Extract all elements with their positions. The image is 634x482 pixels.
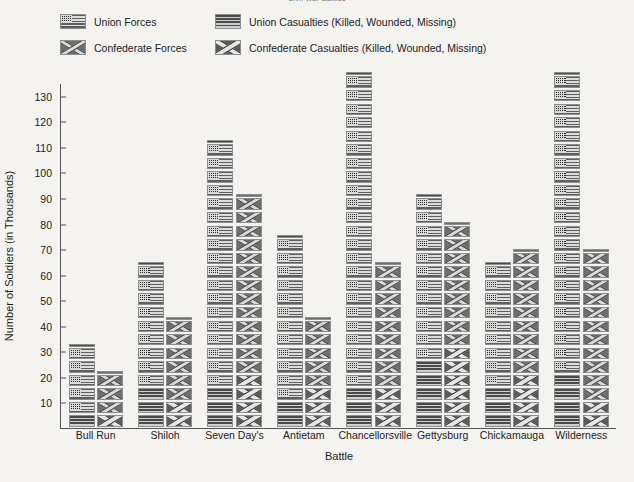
union-flag-casualty-icon xyxy=(207,402,233,413)
legend-item-union-casualties[interactable]: Union Casualties (Killed, Wounded, Missi… xyxy=(215,14,456,29)
confederate-flag-icon xyxy=(97,375,123,386)
bar-cap xyxy=(444,222,470,225)
confederate-flag-icon xyxy=(236,348,262,359)
union-flag-icon xyxy=(207,266,233,277)
union-flag-icon xyxy=(207,198,233,209)
confederate-flag-icon xyxy=(444,266,470,277)
union-flag-casualty-icon xyxy=(346,415,372,426)
union-flag-icon xyxy=(554,158,580,169)
confederate-flag-icon xyxy=(513,253,539,264)
chart-title: Civil War Battles xyxy=(0,0,634,2)
union-flag-icon xyxy=(346,104,372,115)
union-flag-casualty-icon xyxy=(346,402,372,413)
confederate-flag-icon xyxy=(583,334,609,345)
confederate-bar[interactable] xyxy=(97,370,123,428)
confederate-flag-icon xyxy=(583,293,609,304)
union-flag-icon xyxy=(138,361,164,372)
union-flag-icon xyxy=(69,388,95,399)
union-flag-icon xyxy=(554,266,580,277)
union-flag-icon xyxy=(346,90,372,101)
confederate-flag-icon xyxy=(97,388,123,399)
confederate-flag-icon xyxy=(513,307,539,318)
confederate-bar[interactable] xyxy=(583,248,609,428)
legend-row: Union Forces Union Casualties (Killed, W… xyxy=(60,14,580,34)
confederate-flag-icon xyxy=(444,321,470,332)
y-axis-tick-label: 80 xyxy=(15,219,61,231)
union-bar[interactable] xyxy=(69,343,95,428)
confederate-flag-icon xyxy=(513,280,539,291)
y-axis-tick-label: 100 xyxy=(15,167,61,179)
confederate-flag-casualty-icon xyxy=(305,402,331,413)
confederate-flag-icon xyxy=(166,334,192,345)
bar-group: Antietam xyxy=(269,84,338,428)
union-flag-icon xyxy=(138,293,164,304)
union-flag-icon xyxy=(207,212,233,223)
confederate-flag-icon xyxy=(166,321,192,332)
confederate-flag-icon xyxy=(236,198,262,209)
union-flag-icon xyxy=(277,307,303,318)
y-axis-tick-label: 130 xyxy=(15,91,61,103)
confederate-flag-casualty-icon xyxy=(236,388,262,399)
union-flag-icon xyxy=(277,293,303,304)
confederate-flag-icon xyxy=(583,266,609,277)
confederate-flag-icon xyxy=(166,388,192,399)
confederate-flag-icon xyxy=(444,334,470,345)
confederate-flag-icon xyxy=(375,266,401,277)
union-flag-icon xyxy=(485,361,511,372)
confederate-bar[interactable] xyxy=(513,248,539,428)
confederate-flag-icon xyxy=(166,361,192,372)
confederate-flag-icon xyxy=(166,348,192,359)
legend-item-label: Union Casualties (Killed, Wounded, Missi… xyxy=(249,16,456,28)
union-flag-icon xyxy=(346,253,372,264)
bar-cap xyxy=(277,235,303,238)
bar-cap xyxy=(236,194,262,197)
bar-cap xyxy=(207,140,233,143)
confederate-flag-casualty-icon xyxy=(215,40,241,55)
union-flag-icon xyxy=(416,293,442,304)
union-flag-icon xyxy=(277,375,303,386)
union-bar[interactable] xyxy=(138,261,164,428)
confederate-flag-icon xyxy=(375,321,401,332)
confederate-bar[interactable] xyxy=(375,261,401,428)
union-flag-icon xyxy=(346,239,372,250)
union-bar[interactable] xyxy=(485,261,511,428)
union-bar[interactable] xyxy=(346,71,372,428)
union-bar[interactable] xyxy=(277,234,303,428)
y-axis-tick-label: 90 xyxy=(15,193,61,205)
confederate-flag-casualty-icon xyxy=(513,415,539,426)
union-flag-casualty-icon xyxy=(416,375,442,386)
confederate-flag-icon xyxy=(583,388,609,399)
confederate-flag-icon xyxy=(236,239,262,250)
confederate-bar[interactable] xyxy=(444,221,470,428)
confederate-flag-casualty-icon xyxy=(166,415,192,426)
union-flag-icon xyxy=(69,361,95,372)
union-flag-icon xyxy=(346,212,372,223)
confederate-flag-casualty-icon xyxy=(305,415,331,426)
union-flag-icon xyxy=(346,293,372,304)
x-axis-tick-label: Shiloh xyxy=(130,429,199,441)
union-flag-icon xyxy=(416,348,442,359)
confederate-bar[interactable] xyxy=(305,316,331,429)
union-bar[interactable] xyxy=(554,71,580,428)
legend-item-label: Confederate Casualties (Killed, Wounded,… xyxy=(249,42,486,54)
confederate-flag-icon xyxy=(305,321,331,332)
union-flag-icon xyxy=(485,293,511,304)
bar-cap xyxy=(69,344,95,347)
confederate-flag-casualty-icon xyxy=(236,375,262,386)
confederate-bar[interactable] xyxy=(166,316,192,429)
union-flag-icon xyxy=(346,334,372,345)
confederate-flag-icon xyxy=(305,375,331,386)
legend-item-confederate-forces[interactable]: Confederate Forces xyxy=(60,40,187,55)
confederate-bar[interactable] xyxy=(236,193,262,428)
legend-item-confederate-casualties[interactable]: Confederate Casualties (Killed, Wounded,… xyxy=(215,40,486,55)
union-flag-icon xyxy=(346,117,372,128)
legend-item-union-forces[interactable]: Union Forces xyxy=(60,14,156,29)
y-axis-tick-label: 70 xyxy=(15,244,61,256)
confederate-flag-icon xyxy=(583,321,609,332)
union-flag-icon xyxy=(554,104,580,115)
y-axis-tick-label: 10 xyxy=(15,397,61,409)
union-bar[interactable] xyxy=(416,193,442,428)
union-bar[interactable] xyxy=(207,139,233,428)
x-axis-tick-label: Antietam xyxy=(269,429,338,441)
confederate-flag-icon xyxy=(236,321,262,332)
